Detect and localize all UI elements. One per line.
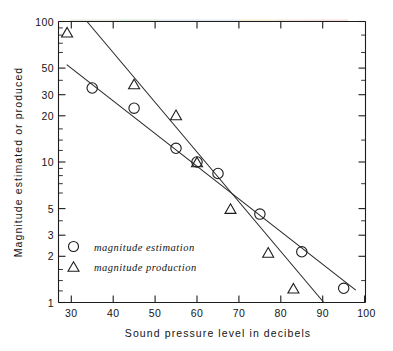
data-point-triangle <box>62 27 73 37</box>
x-tick-label: 90 <box>316 307 328 319</box>
fit-line-magnitude-production <box>87 22 324 303</box>
y-tick-label: 3 <box>48 229 54 241</box>
x-tick-label: 80 <box>275 307 287 319</box>
data-point-circle <box>339 283 349 293</box>
fit-lines <box>67 22 356 303</box>
x-tick-label: 60 <box>191 307 203 319</box>
legend-triangle-icon <box>68 262 79 271</box>
fit-line-magnitude-estimation <box>67 65 356 291</box>
y-tick-label: 100 <box>35 16 54 28</box>
legend-entry-magnitude-estimation: magnitude estimation <box>69 242 195 253</box>
data-point-circle <box>255 209 265 219</box>
chart-legend: magnitude estimation magnitude productio… <box>68 242 197 273</box>
x-axis-ticks <box>71 22 364 303</box>
y-axis-tick-labels: 100 50 30 20 10 5 3 2 1 <box>35 16 54 309</box>
y-axis-major-ticks <box>59 22 366 303</box>
data-point-triangle <box>171 110 182 120</box>
y-tick-label: 30 <box>42 89 54 101</box>
data-point-circle <box>171 143 181 153</box>
series-magnitude-production <box>62 27 299 293</box>
y-tick-label: 10 <box>42 156 54 168</box>
figure-root: 100 50 30 20 10 5 3 2 1 30 40 50 60 70 8… <box>0 0 393 351</box>
legend-label-magnitude-estimation: magnitude estimation <box>94 242 195 253</box>
legend-label-magnitude-production: magnitude production <box>94 262 197 273</box>
y-tick-label: 2 <box>48 250 54 262</box>
data-point-circle <box>129 103 139 113</box>
x-tick-label: 70 <box>233 307 245 319</box>
y-tick-label: 20 <box>42 110 54 122</box>
x-axis-tick-labels: 30 40 50 60 70 80 90 100 <box>65 307 376 319</box>
data-point-triangle <box>263 248 274 258</box>
x-tick-label: 30 <box>65 307 77 319</box>
data-point-triangle <box>288 283 299 293</box>
x-tick-label: 100 <box>357 307 376 319</box>
x-tick-label: 50 <box>149 307 161 319</box>
legend-entry-magnitude-production: magnitude production <box>68 262 197 273</box>
x-tick-label: 40 <box>107 307 119 319</box>
y-tick-label: 50 <box>42 62 54 74</box>
y-axis-title: Magnitude estimated or produced <box>12 67 24 258</box>
magnitude-scaling-chart: 100 50 30 20 10 5 3 2 1 30 40 50 60 70 8… <box>0 0 393 351</box>
data-point-triangle <box>129 79 140 89</box>
legend-circle-icon <box>69 242 79 252</box>
y-tick-label: 1 <box>48 297 54 309</box>
axes-frame <box>59 22 366 303</box>
y-tick-label: 5 <box>48 203 54 215</box>
x-axis-title: Sound pressure level in decibels <box>125 327 311 339</box>
data-point-triangle <box>225 204 236 214</box>
